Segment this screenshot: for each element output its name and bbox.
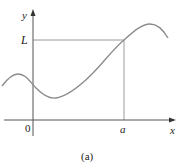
origin-label: 0 (25, 122, 31, 134)
y-axis-arrow-icon (31, 9, 36, 16)
x-axis-label: x (169, 124, 175, 136)
y-axis-label: y (21, 9, 27, 21)
function-limit-diagram: y L 0 a x (a) (0, 0, 181, 164)
level-L-label: L (20, 33, 28, 47)
diagram-canvas: y L 0 a x (a) (0, 0, 181, 164)
point-a-label: a (120, 123, 126, 135)
figure-caption: (a) (81, 150, 94, 163)
x-axis-arrow-icon (169, 118, 176, 123)
